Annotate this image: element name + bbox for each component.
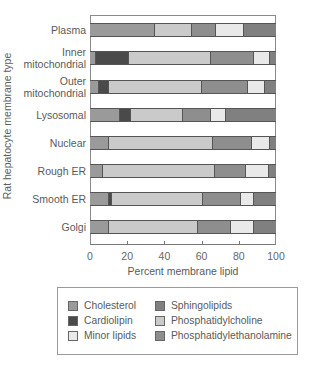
category-label-line: mitochondrial bbox=[24, 87, 86, 99]
bar-segment-phosphatidylethanolamine bbox=[202, 81, 249, 93]
bar-segment-minor-lipids bbox=[252, 137, 271, 149]
category-label-line: Smooth ER bbox=[32, 193, 86, 205]
bar-segment-phosphatidylcholine bbox=[109, 221, 198, 233]
legend-label: Sphingolipids bbox=[171, 300, 232, 311]
legend-label: Phosphatidylcholine bbox=[171, 315, 263, 326]
bar-segment-sphingolipids bbox=[269, 165, 276, 177]
bar-segment-cholesterol bbox=[90, 24, 155, 36]
legend-item-phosphatidylcholine: Phosphatidylcholine bbox=[155, 315, 263, 326]
bar-segment-cholesterol bbox=[90, 109, 120, 121]
bar-segment-minor-lipids bbox=[216, 24, 244, 36]
legend-item-cholesterol: Cholesterol bbox=[68, 300, 136, 311]
bar-segment-cardiolipin bbox=[120, 109, 131, 121]
bar-segment-phosphatidylethanolamine bbox=[213, 137, 252, 149]
x-tick-label: 80 bbox=[233, 250, 245, 262]
stacked-bar bbox=[90, 136, 276, 150]
x-tick-label: 100 bbox=[267, 250, 285, 262]
category-label: Nuclear bbox=[50, 137, 86, 149]
stacked-bar bbox=[90, 80, 276, 94]
stacked-bar bbox=[90, 192, 276, 206]
bar-segment-cholesterol bbox=[90, 165, 103, 177]
bar-segment-sphingolipids bbox=[244, 24, 276, 36]
stacked-bar bbox=[90, 51, 276, 65]
x-tick-label: 20 bbox=[121, 250, 133, 262]
category-label-line: Inner bbox=[24, 46, 86, 58]
legend-item-minor-lipids: Minor lipids bbox=[68, 330, 136, 341]
category-label: Outermitochondrial bbox=[24, 75, 86, 99]
category-label: Golgi bbox=[61, 221, 86, 233]
bar-segment-phosphatidylcholine bbox=[131, 109, 183, 121]
bar-segment-minor-lipids bbox=[241, 193, 254, 205]
category-label-line: Plasma bbox=[51, 24, 86, 36]
bar-segment-cardiolipin bbox=[96, 52, 129, 64]
bar-segment-minor-lipids bbox=[231, 221, 253, 233]
x-tick-label: 40 bbox=[159, 250, 171, 262]
legend-swatch bbox=[155, 331, 165, 341]
bar-segment-minor-lipids bbox=[254, 52, 271, 64]
bar-segment-phosphatidylcholine bbox=[129, 52, 211, 64]
bar-segment-sphingolipids bbox=[265, 81, 276, 93]
stacked-bar bbox=[90, 108, 276, 122]
bar-segment-phosphatidylethanolamine bbox=[215, 165, 247, 177]
category-label: Innermitochondrial bbox=[24, 46, 86, 70]
stacked-bar bbox=[90, 220, 276, 234]
legend-swatch bbox=[68, 331, 78, 341]
x-tick bbox=[164, 241, 165, 245]
category-label-line: mitochondrial bbox=[24, 58, 86, 70]
x-axis: 020406080100 bbox=[90, 245, 276, 265]
legend-swatch bbox=[155, 316, 165, 326]
x-tick bbox=[239, 241, 240, 245]
category-label-line: Golgi bbox=[61, 221, 86, 233]
bar-segment-sphingolipids bbox=[270, 137, 276, 149]
plot-area bbox=[90, 15, 276, 245]
bar-segment-phosphatidylethanolamine bbox=[203, 193, 240, 205]
bar-segment-phosphatidylethanolamine bbox=[183, 109, 211, 121]
bar-segment-minor-lipids bbox=[246, 165, 268, 177]
bar-segment-minor-lipids bbox=[211, 109, 226, 121]
bar-segment-phosphatidylcholine bbox=[103, 165, 215, 177]
bar-segment-cholesterol bbox=[90, 81, 99, 93]
x-tick-label: 60 bbox=[196, 250, 208, 262]
bar-segment-sphingolipids bbox=[226, 109, 276, 121]
bar-segment-sphingolipids bbox=[254, 221, 276, 233]
x-tick bbox=[202, 241, 203, 245]
legend-label: Minor lipids bbox=[84, 330, 136, 341]
x-axis-label: Percent membrane lipid bbox=[90, 265, 276, 277]
stacked-bar bbox=[90, 23, 276, 37]
bar-segment-phosphatidylcholine bbox=[112, 193, 203, 205]
legend-label: Phosphatidylethanolamine bbox=[171, 330, 292, 341]
legend-item-phosphatidylethanolamine: Phosphatidylethanolamine bbox=[155, 330, 292, 341]
category-label: Rough ER bbox=[38, 165, 86, 177]
category-label-line: Rough ER bbox=[38, 165, 86, 177]
category-label: Lysosomal bbox=[36, 109, 86, 121]
bar-segment-phosphatidylcholine bbox=[109, 81, 202, 93]
bar-segment-phosphatidylethanolamine bbox=[192, 24, 216, 36]
bar-segment-cholesterol bbox=[90, 193, 109, 205]
category-label-line: Nuclear bbox=[50, 137, 86, 149]
bar-segment-cholesterol bbox=[90, 137, 109, 149]
legend-swatch bbox=[68, 301, 78, 311]
bar-segment-phosphatidylethanolamine bbox=[211, 52, 254, 64]
bar-segment-phosphatidylcholine bbox=[155, 24, 192, 36]
legend-item-sphingolipids: Sphingolipids bbox=[155, 300, 232, 311]
y-axis-label-text: Rat hepatocyte membrane type bbox=[1, 53, 13, 200]
category-label: Smooth ER bbox=[32, 193, 86, 205]
x-tick bbox=[127, 241, 128, 245]
category-label: Plasma bbox=[51, 24, 86, 36]
category-label-line: Outer bbox=[24, 75, 86, 87]
legend: CholesterolCardiolipinMinor lipidsSphing… bbox=[57, 287, 298, 355]
legend-swatch bbox=[155, 301, 165, 311]
legend-label: Cholesterol bbox=[84, 300, 136, 311]
bar-segment-phosphatidylethanolamine bbox=[198, 221, 231, 233]
bar-segment-sphingolipids bbox=[254, 193, 276, 205]
legend-label: Cardiolipin bbox=[84, 315, 133, 326]
legend-item-cardiolipin: Cardiolipin bbox=[68, 315, 133, 326]
bar-segment-cholesterol bbox=[90, 221, 109, 233]
bar-segment-phosphatidylcholine bbox=[109, 137, 213, 149]
bar-segment-cardiolipin bbox=[99, 81, 108, 93]
bar-segment-sphingolipids bbox=[270, 52, 276, 64]
category-label-line: Lysosomal bbox=[36, 109, 86, 121]
bar-segment-minor-lipids bbox=[248, 81, 265, 93]
x-tick-label: 0 bbox=[87, 250, 93, 262]
legend-swatch bbox=[68, 316, 78, 326]
